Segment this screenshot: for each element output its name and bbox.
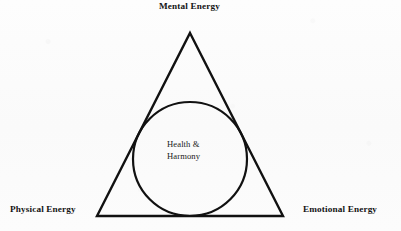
center-label-line-1: Health & — [167, 139, 200, 151]
label-emotional-energy: Emotional Energy — [303, 205, 377, 214]
label-physical-energy: Physical Energy — [10, 205, 76, 214]
label-mental-energy: Mental Energy — [0, 2, 401, 11]
center-label-line-2: Harmony — [167, 151, 200, 163]
energy-balance-diagram — [0, 0, 401, 231]
diagram-canvas: Mental Energy Physical Energy Emotional … — [0, 0, 401, 231]
triangle-outline-icon — [97, 33, 283, 216]
center-label-health-harmony: Health & Harmony — [167, 139, 200, 163]
